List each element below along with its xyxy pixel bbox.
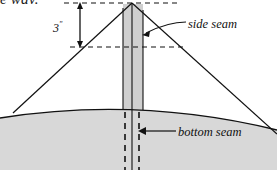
dimension-label: 3" [53, 20, 62, 36]
side-seam-label: side seam [188, 17, 237, 32]
side-seam-leader-line [146, 22, 186, 33]
figure-screenshot: e way. 3" side seam [0, 0, 277, 170]
column-fill [123, 4, 143, 110]
dimension-unit: " [59, 20, 62, 29]
tent-left-slope [13, 3, 132, 113]
bottom-seam-label: bottom seam [178, 125, 242, 140]
